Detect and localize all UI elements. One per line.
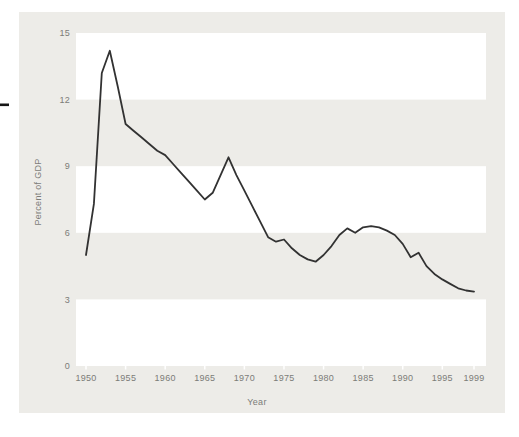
page-margin-dash [0,104,9,107]
x-tick-mark [402,366,404,370]
x-axis-title: Year [247,397,266,407]
value-band [76,299,486,366]
y-tick-label: 0 [65,361,70,371]
x-tick-label: 1970 [234,373,255,383]
y-axis-title: Percent of GDP [33,158,43,225]
x-tick-mark [204,366,206,370]
x-tick-label: 1985 [353,373,374,383]
x-tick-label: 1999 [463,373,484,383]
gdp-line-chart: 03691215 1950195519601965197019751980198… [0,0,519,437]
background-bands-layer [76,33,486,366]
x-tick-label: 1965 [194,373,215,383]
x-tick-mark [283,366,285,370]
book-page: 03691215 1950195519601965197019751980198… [0,0,519,437]
x-tick-mark [125,366,127,370]
x-tick-mark [164,366,166,370]
y-tick-label: 9 [65,161,70,171]
value-band [76,33,486,100]
y-tick-label: 6 [65,228,70,238]
x-tick-label: 1990 [392,373,413,383]
x-tick-mark [362,366,364,370]
y-tick-label: 3 [65,295,70,305]
x-tick-mark [323,366,325,370]
x-tick-label: 1960 [155,373,176,383]
y-tick-label: 15 [59,28,70,38]
x-tick-label: 1995 [432,373,453,383]
x-tick-mark [244,366,246,370]
x-tick-label: 1980 [313,373,334,383]
y-tick-label: 12 [59,95,70,105]
x-tick-label: 1955 [115,373,136,383]
x-tick-mark [473,366,475,370]
x-tick-label: 1975 [273,373,294,383]
x-tick-mark [442,366,444,370]
x-tick-label: 1950 [75,373,96,383]
value-band [76,166,486,233]
x-tick-mark [85,366,87,370]
